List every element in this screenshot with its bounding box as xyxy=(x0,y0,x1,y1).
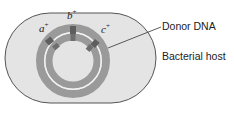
gene-b-marker-outer xyxy=(70,26,76,34)
gene-label-b: b+ xyxy=(67,8,76,21)
donor-dna-label: Donor DNA xyxy=(162,20,216,32)
bacterial-host-label: Bacterial host xyxy=(162,50,226,62)
gene-b-marker-inner xyxy=(71,34,76,41)
gene-label-c: c+ xyxy=(101,22,110,35)
gene-label-a: a+ xyxy=(39,21,48,34)
transformation-diagram: a+ b+ c+ Donor DNA Bacterial host xyxy=(0,0,234,114)
